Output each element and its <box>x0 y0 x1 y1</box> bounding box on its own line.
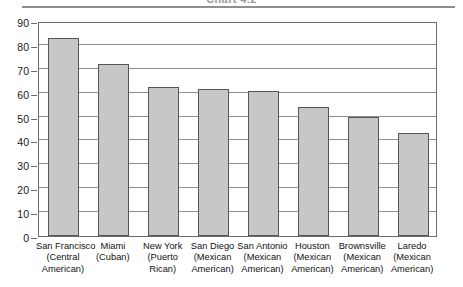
y-axis: 0102030405060708090 <box>0 22 38 238</box>
y-axis-tick-mark <box>31 214 37 215</box>
page-title: Chart 4.2 <box>0 0 463 5</box>
x-axis-label-line: Miami <box>86 241 140 252</box>
x-axis-label-line: (Mexican <box>335 252 389 263</box>
x-axis-label-line: American) <box>36 264 90 275</box>
bar <box>148 87 179 236</box>
x-axis-category-label: San Diego(MexicanAmerican) <box>186 241 240 275</box>
x-axis-label-line: (Mexican <box>285 252 339 263</box>
x-axis-label-line: Brownsville <box>335 241 389 252</box>
bar <box>48 38 79 236</box>
title-divider-rule <box>22 6 455 8</box>
x-axis-label-line: (Puerto <box>136 252 190 263</box>
x-axis-label-line: American) <box>385 264 439 275</box>
x-axis-category-label: Houston(MexicanAmerican) <box>285 241 339 275</box>
y-axis-tick-label: 10 <box>17 208 29 220</box>
y-axis-tick-mark <box>31 142 37 143</box>
x-axis-label-line: (Mexican <box>385 252 439 263</box>
x-axis-label-line: New York <box>136 241 190 252</box>
x-axis-category-label: Miami(Cuban) <box>86 241 140 264</box>
x-axis-label-line: (Mexican <box>186 252 240 263</box>
bar-chart: 0102030405060708090 San Francisco(Centra… <box>0 10 463 287</box>
x-axis-label-line: San Diego <box>186 241 240 252</box>
x-axis-category-label: San Antonio(MexicanAmerican) <box>236 241 290 275</box>
x-axis-label-line: (Cuban) <box>86 252 140 263</box>
y-axis-tick-mark <box>31 119 37 120</box>
x-axis-category-label: Brownsville(MexicanAmerican) <box>335 241 389 275</box>
y-axis-tick-mark <box>31 47 37 48</box>
x-axis-label-line: (Mexican <box>236 252 290 263</box>
x-axis-label-line: (Central <box>36 252 90 263</box>
bar <box>398 133 429 236</box>
x-axis-label-line: American) <box>236 264 290 275</box>
y-axis-tick-mark <box>31 23 37 24</box>
bar <box>248 91 279 236</box>
y-axis-tick-mark <box>31 71 37 72</box>
x-axis-label-line: Houston <box>285 241 339 252</box>
x-axis-label-line: San Francisco <box>36 241 90 252</box>
x-axis-label-line: San Antonio <box>236 241 290 252</box>
x-axis-label-line: American) <box>186 264 240 275</box>
y-axis-tick-label: 60 <box>17 89 29 101</box>
x-axis-label-line: Laredo <box>385 241 439 252</box>
x-axis-category-label: San Francisco(CentralAmerican) <box>36 241 90 275</box>
bar <box>298 107 329 236</box>
y-axis-tick-mark <box>31 190 37 191</box>
bar <box>348 117 379 236</box>
y-axis-tick-mark <box>31 238 37 239</box>
y-axis-tick-label: 70 <box>17 65 29 77</box>
y-axis-tick-label: 80 <box>17 41 29 53</box>
x-axis-label-line: American) <box>335 264 389 275</box>
x-axis-label-line: Rican) <box>136 264 190 275</box>
y-axis-tick-mark <box>31 95 37 96</box>
gridline-80 <box>39 44 436 45</box>
bar <box>98 64 129 236</box>
y-axis-tick-mark <box>31 166 37 167</box>
plot-area <box>38 22 437 237</box>
x-axis-category-label: Laredo(MexicanAmerican) <box>385 241 439 275</box>
y-axis-tick-label: 0 <box>23 232 29 244</box>
x-axis-category-label: New York(PuertoRican) <box>136 241 190 275</box>
y-axis-tick-label: 50 <box>17 113 29 125</box>
y-axis-tick-label: 40 <box>17 136 29 148</box>
y-axis-tick-label: 30 <box>17 160 29 172</box>
y-axis-tick-label: 20 <box>17 184 29 196</box>
y-axis-tick-label: 90 <box>17 17 29 29</box>
x-axis-category-labels: San Francisco(CentralAmerican)Miami(Cuba… <box>38 241 437 287</box>
bar <box>198 89 229 236</box>
x-axis-label-line: American) <box>285 264 339 275</box>
